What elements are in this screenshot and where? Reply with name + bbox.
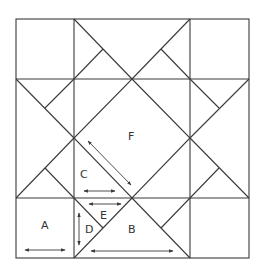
arrow-f-diagonal: [88, 141, 131, 185]
label-c: C: [80, 168, 88, 181]
label-a: A: [41, 219, 49, 232]
left-star-point: [16, 79, 74, 198]
grain-arrows: [25, 141, 173, 251]
top-star-point: [74, 19, 190, 79]
label-d: D: [85, 223, 93, 236]
label-f: F: [128, 130, 134, 143]
label-e: E: [100, 209, 107, 222]
quilt-block-diagram: F C E D A B: [0, 0, 264, 278]
label-b: B: [128, 223, 136, 236]
right-star-point: [190, 79, 249, 198]
